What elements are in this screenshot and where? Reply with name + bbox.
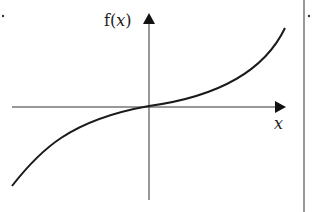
y-axis-arrow-icon xyxy=(143,13,155,24)
function-graph: f(x) x xyxy=(0,0,312,212)
stray-dot-left xyxy=(2,15,4,17)
x-axis-arrow-icon xyxy=(275,101,286,113)
y-axis-label: f(x) xyxy=(104,11,131,30)
x-axis-label: x xyxy=(274,114,283,133)
stray-dot-right xyxy=(308,15,310,17)
